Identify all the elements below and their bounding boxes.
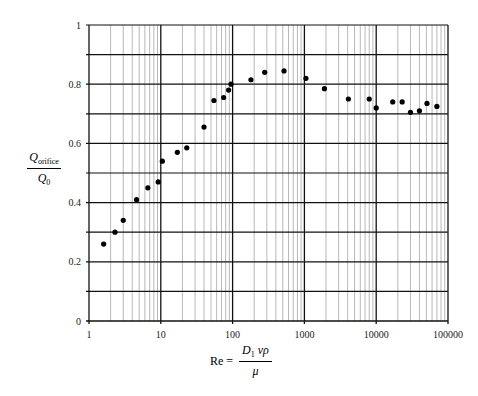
data-point: [322, 86, 327, 91]
data-point: [101, 241, 106, 246]
y-tick-label: 1: [76, 20, 81, 31]
x-tick-label: 100: [225, 329, 240, 340]
data-point: [346, 96, 351, 101]
y-tick-label: 0.6: [69, 138, 82, 149]
data-point: [121, 218, 126, 223]
data-point: [374, 105, 379, 110]
data-point: [400, 99, 405, 104]
data-point: [303, 76, 308, 81]
data-point: [367, 96, 372, 101]
data-point: [434, 104, 439, 109]
data-point: [424, 101, 429, 106]
x-tick-label: 1: [87, 329, 92, 340]
data-point: [145, 185, 150, 190]
data-point: [226, 88, 231, 93]
data-point: [417, 108, 422, 113]
data-point: [228, 82, 233, 87]
data-point: [184, 145, 189, 150]
x-tick-label: 10000: [364, 329, 389, 340]
data-point: [281, 68, 286, 73]
data-point: [201, 125, 206, 130]
data-point: [160, 159, 165, 164]
x-axis-label: Re = D1 vρ μ: [210, 343, 272, 379]
data-point: [248, 77, 253, 82]
x-tick-label: 100000: [433, 329, 463, 340]
data-point: [134, 197, 139, 202]
data-point: [408, 110, 413, 115]
y-axis-label: Qorifice Q0: [14, 150, 74, 188]
data-point: [390, 99, 395, 104]
x-tick-label: 1000: [294, 329, 314, 340]
data-point: [221, 95, 226, 100]
data-point: [211, 98, 216, 103]
y-tick-label: 0.4: [69, 197, 82, 208]
data-point: [262, 70, 267, 75]
data-point: [175, 150, 180, 155]
data-point: [156, 179, 161, 184]
y-tick-label: 0.2: [69, 256, 82, 267]
y-tick-label: 0: [76, 316, 81, 327]
x-tick-label: 10: [156, 329, 166, 340]
y-tick-label: 0.8: [69, 79, 82, 90]
data-point: [112, 230, 117, 235]
chart-plot: 00.20.40.60.81110100100010000100000: [0, 0, 478, 396]
